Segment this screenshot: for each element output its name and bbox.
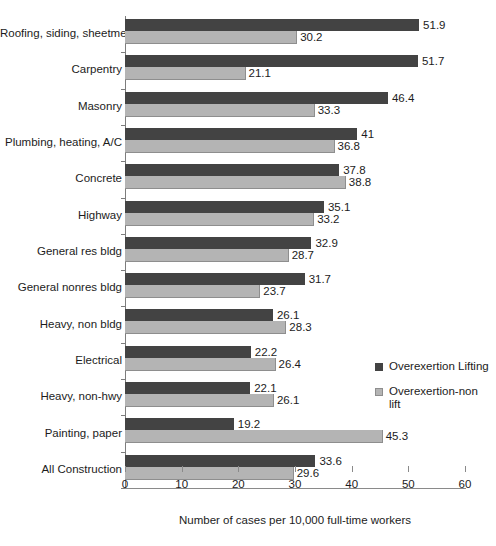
bar-overexertion-lifting: 51.7 (125, 55, 418, 67)
bar-value-label: 35.1 (328, 201, 350, 213)
bar-value-label: 28.3 (289, 321, 311, 333)
bar-overexertion-non-lift: 23.7 (125, 285, 260, 298)
x-axis-tick-label: 10 (175, 478, 188, 490)
bar-value-label: 23.7 (263, 285, 285, 297)
bar-group: 51.721.1 (125, 52, 465, 88)
bar-value-label: 51.9 (423, 19, 445, 31)
bar-overexertion-lifting: 31.7 (125, 273, 305, 285)
y-axis-category-label: Heavy, non bldg (0, 318, 122, 331)
bar-overexertion-lifting: 19.2 (125, 418, 234, 430)
bar-group: 35.133.2 (125, 198, 465, 234)
bar-value-label: 36.8 (338, 140, 360, 152)
bar-value-label: 29.6 (297, 467, 319, 479)
bar-value-label: 19.2 (238, 418, 260, 430)
legend-label: Overexertion Lifting (389, 360, 493, 374)
bar-value-label: 21.1 (249, 67, 271, 79)
bar-overexertion-lifting: 26.1 (125, 309, 273, 321)
bar-overexertion-lifting: 46.4 (125, 92, 388, 104)
x-axis-tick-label: 30 (289, 478, 302, 490)
bar-overexertion-non-lift: 36.8 (125, 140, 335, 153)
y-axis-category-label: General res bldg (0, 245, 122, 258)
y-axis-category-label: Carpentry (0, 63, 122, 76)
bar-chart: Roofing, siding, sheetmetalCarpentryMaso… (0, 0, 496, 546)
chart-legend: Overexertion LiftingOverexertion-nonlift (375, 360, 493, 423)
bar-value-label: 32.9 (315, 237, 337, 249)
bar-value-label: 31.7 (309, 273, 331, 285)
bar-overexertion-non-lift: 33.2 (125, 213, 314, 226)
bar-group: 26.128.3 (125, 306, 465, 342)
bar-group: 51.930.2 (125, 16, 465, 52)
bar-value-label: 37.8 (343, 164, 365, 176)
bar-overexertion-non-lift: 28.3 (125, 321, 286, 334)
legend-item[interactable]: Overexertion Lifting (375, 360, 493, 374)
bar-group: 46.433.3 (125, 89, 465, 125)
bar-overexertion-non-lift: 38.8 (125, 176, 346, 189)
x-axis-tick-label: 40 (345, 478, 358, 490)
legend-swatch-icon (375, 388, 383, 396)
bar-overexertion-lifting: 35.1 (125, 201, 324, 213)
y-axis-category-label: General nonres bldg (0, 281, 122, 294)
bar-value-label: 41 (361, 128, 374, 140)
y-axis-category-label: Electrical (0, 354, 122, 367)
bar-overexertion-lifting: 22.2 (125, 346, 251, 358)
bar-value-label: 26.1 (277, 394, 299, 406)
bar-overexertion-lifting: 32.9 (125, 237, 311, 249)
legend-label: Overexertion-non (389, 385, 493, 399)
x-axis-tick (408, 466, 409, 472)
bar-overexertion-lifting: 51.9 (125, 19, 419, 31)
bar-group: 4136.8 (125, 125, 465, 161)
y-axis-category-labels: Roofing, siding, sheetmetalCarpentryMaso… (0, 16, 122, 488)
bar-value-label: 33.2 (317, 213, 339, 225)
bar-value-label: 33.6 (319, 455, 341, 467)
bar-overexertion-lifting: 22.1 (125, 382, 250, 394)
y-axis-category-label: Concrete (0, 172, 122, 185)
bar-overexertion-non-lift: 33.3 (125, 104, 315, 117)
bar-overexertion-non-lift: 21.1 (125, 67, 246, 80)
legend-item[interactable]: Overexertion-nonlift (375, 385, 493, 412)
bar-overexertion-non-lift: 26.1 (125, 394, 274, 407)
x-axis-tick (465, 466, 466, 472)
bar-value-label: 26.1 (277, 309, 299, 321)
bar-overexertion-non-lift: 30.2 (125, 31, 297, 44)
bar-group: 31.723.7 (125, 270, 465, 306)
bar-overexertion-non-lift: 29.6 (125, 467, 294, 480)
bar-overexertion-lifting: 41 (125, 128, 357, 140)
y-axis-category-label: Plumbing, heating, A/C (0, 136, 122, 149)
bar-overexertion-lifting: 37.8 (125, 164, 339, 176)
bar-value-label: 26.4 (279, 358, 301, 370)
legend-label: lift (389, 398, 493, 412)
x-axis-tick-label: 20 (232, 478, 245, 490)
y-axis-category-label: All Construction (0, 463, 122, 476)
bar-overexertion-lifting: 33.6 (125, 455, 315, 467)
bar-value-label: 30.2 (300, 31, 322, 43)
x-axis-tick (125, 466, 126, 472)
bar-value-label: 51.7 (422, 55, 444, 67)
x-axis-tick-label: 50 (402, 478, 415, 490)
y-axis-category-label: Highway (0, 209, 122, 222)
y-axis-category-label: Roofing, siding, sheetmetal (0, 27, 122, 40)
bar-overexertion-non-lift: 45.3 (125, 430, 383, 443)
y-axis-category-label: Masonry (0, 100, 122, 113)
legend-swatch-icon (375, 363, 383, 371)
bar-group: 32.928.7 (125, 234, 465, 270)
x-axis-tick (352, 466, 353, 472)
bar-value-label: 46.4 (392, 92, 414, 104)
bar-value-label: 38.8 (349, 176, 371, 188)
bar-value-label: 33.3 (318, 104, 340, 116)
bar-value-label: 45.3 (386, 430, 408, 442)
y-axis-category-label: Heavy, non-hwy (0, 390, 122, 403)
x-axis-tick-label: 60 (459, 478, 472, 490)
bar-value-label: 22.1 (254, 382, 276, 394)
bar-value-label: 22.2 (255, 346, 277, 358)
bar-value-label: 28.7 (292, 249, 314, 261)
x-axis-tick (182, 466, 183, 472)
y-axis-category-label: Painting, paper (0, 427, 122, 440)
x-axis-title: Number of cases per 10,000 full-time wor… (125, 514, 465, 526)
x-axis-tick (238, 466, 239, 472)
x-axis-tick (295, 466, 296, 472)
x-axis-tick-label: 0 (122, 478, 128, 490)
bar-overexertion-non-lift: 26.4 (125, 358, 276, 371)
bar-overexertion-non-lift: 28.7 (125, 249, 289, 262)
bar-group: 37.838.8 (125, 161, 465, 197)
